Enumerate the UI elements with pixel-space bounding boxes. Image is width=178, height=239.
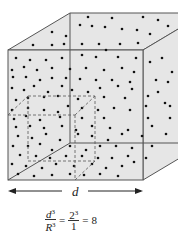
particle-dot <box>17 173 20 176</box>
particle-dot <box>45 59 48 62</box>
particle-dot <box>13 118 16 121</box>
particle-dot <box>164 102 167 105</box>
equals-sign-2: = <box>82 214 88 226</box>
particle-dot <box>25 76 28 79</box>
particle-dot <box>95 79 98 82</box>
particle-dot <box>11 69 14 72</box>
particle-dot <box>95 56 98 59</box>
particle-dot <box>117 56 120 59</box>
particle-dot <box>111 157 114 160</box>
rhs-denominator: 1 <box>71 221 77 231</box>
particle-dot <box>51 31 54 34</box>
particle-dot <box>39 143 42 146</box>
equals-sign: = <box>59 214 65 226</box>
particle-dot <box>83 174 86 177</box>
particle-dot <box>81 117 84 120</box>
lhs-fraction: d3 R3 <box>45 207 56 232</box>
particle-dot <box>137 42 140 45</box>
particle-dot <box>51 67 54 70</box>
particle-dot <box>147 117 150 120</box>
particle-dot <box>136 29 139 32</box>
particle-dot <box>43 109 46 112</box>
particle-dot <box>51 149 54 152</box>
big-cube <box>8 13 178 180</box>
particle-dot <box>77 98 80 101</box>
particle-dot <box>141 135 144 138</box>
particle-dot <box>167 81 170 84</box>
particle-dot <box>145 157 148 160</box>
particle-dot <box>12 76 15 79</box>
rhs-numerator-exponent: 3 <box>75 209 79 217</box>
particle-dot <box>51 77 54 80</box>
particle-dot <box>35 155 38 158</box>
particle-dot <box>36 69 39 72</box>
particle-dot <box>79 78 82 81</box>
rhs-fraction: 23 1 <box>68 208 79 231</box>
particle-dot <box>117 85 120 88</box>
particle-dot <box>67 105 70 108</box>
particle-dot <box>135 57 138 60</box>
particle-dot <box>151 125 154 128</box>
particle-dot <box>19 154 22 157</box>
particle-dot <box>69 68 72 71</box>
particle-dot <box>15 99 18 102</box>
particle-dot <box>33 175 36 178</box>
particle-dot <box>121 133 124 136</box>
particle-dot <box>33 85 36 88</box>
particle-dot <box>23 66 26 69</box>
particle-dot <box>103 69 106 72</box>
particle-dot <box>91 25 94 28</box>
particle-dot <box>71 89 74 92</box>
particle-dot <box>61 125 64 128</box>
particle-dot <box>124 97 127 100</box>
particle-dot <box>97 157 100 160</box>
particle-dot <box>29 59 32 62</box>
particle-dot <box>85 149 88 152</box>
particle-dot <box>25 165 28 168</box>
particle-dot <box>11 87 14 90</box>
particle-dot <box>133 161 136 164</box>
particle-dot <box>11 163 14 166</box>
particle-dot <box>149 33 152 36</box>
particle-dot <box>147 95 150 98</box>
particle-dot <box>87 91 90 94</box>
particle-dot <box>85 67 88 70</box>
particle-dot <box>111 17 114 20</box>
particle-dot <box>104 26 107 29</box>
particle-dot <box>91 125 94 128</box>
particle-dot <box>121 67 124 70</box>
particle-dot <box>103 96 106 99</box>
particle-dot <box>51 174 54 177</box>
particle-dot <box>99 87 102 90</box>
particle-dot <box>119 43 122 46</box>
particle-dot <box>43 127 46 130</box>
particle-dot <box>151 145 154 148</box>
particle-dot <box>59 116 62 119</box>
particle-dot <box>149 61 152 64</box>
particle-dot <box>97 109 100 112</box>
particle-dot <box>59 139 62 142</box>
particle-dot <box>99 173 102 176</box>
particle-dot <box>167 25 170 28</box>
particle-dot <box>157 91 160 94</box>
particle-dot <box>29 125 32 128</box>
particle-dot <box>79 24 82 27</box>
particle-dot <box>105 167 108 170</box>
particle-dot <box>121 165 124 168</box>
particle-dot <box>15 57 18 60</box>
particle-dot <box>121 28 124 31</box>
particle-dot <box>129 81 132 84</box>
particle-dot <box>65 77 68 80</box>
particle-dot <box>55 163 58 166</box>
particle-dot <box>169 105 172 108</box>
particle-dot <box>157 19 160 22</box>
particle-dot <box>63 43 66 46</box>
particle-dot <box>39 119 42 122</box>
particle-dot <box>65 155 68 158</box>
particle-dot <box>45 133 48 136</box>
particle-dot <box>32 44 35 47</box>
volume-ratio-formula: d3 R3 = 23 1 = 8 <box>45 207 97 232</box>
particle-dot <box>31 137 34 140</box>
particle-dot <box>69 173 72 176</box>
particle-dot <box>131 88 134 91</box>
